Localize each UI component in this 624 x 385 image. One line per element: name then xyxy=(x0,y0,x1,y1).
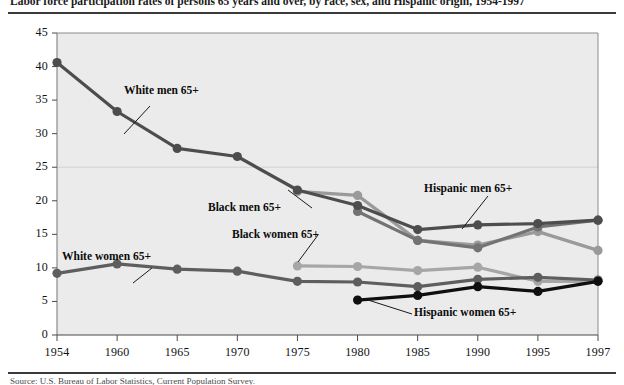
data-point xyxy=(473,220,482,229)
annotation-black-men: Black men 65+ xyxy=(208,201,281,213)
data-point xyxy=(593,216,602,225)
x-tick-label-1975: 1975 xyxy=(274,345,320,360)
x-tick-label-1990: 1990 xyxy=(455,345,501,360)
data-point xyxy=(353,277,362,286)
figure-panel: Labor force participation rates of perso… xyxy=(0,0,624,385)
data-point xyxy=(113,107,122,116)
data-point xyxy=(233,152,242,161)
data-point xyxy=(413,282,422,291)
data-point xyxy=(52,269,61,278)
data-point xyxy=(173,144,182,153)
data-point xyxy=(413,236,422,245)
data-point xyxy=(593,277,602,286)
x-tick-label-1965: 1965 xyxy=(154,345,200,360)
data-point xyxy=(533,219,542,228)
data-point xyxy=(52,58,61,67)
data-point xyxy=(413,291,422,300)
annotation-white-women: White women 65+ xyxy=(62,250,151,262)
y-tick-label-45: 45 xyxy=(22,25,48,40)
data-point xyxy=(293,261,302,270)
data-point xyxy=(473,243,482,252)
data-point xyxy=(353,201,362,210)
x-tick-label-1980: 1980 xyxy=(335,345,381,360)
annotation-hispanic-men: Hispanic men 65+ xyxy=(424,182,512,194)
y-tick-label-10: 10 xyxy=(22,260,48,275)
chart-canvas xyxy=(0,0,624,385)
x-tick-label-1995: 1995 xyxy=(515,345,561,360)
x-tick-label-1997: 1997 xyxy=(575,345,621,360)
data-point xyxy=(413,266,422,275)
annotation-white-men: White men 65+ xyxy=(124,84,199,96)
data-point xyxy=(353,262,362,271)
y-tick-label-40: 40 xyxy=(22,59,48,74)
data-point xyxy=(533,273,542,282)
data-point xyxy=(533,287,542,296)
data-point xyxy=(473,282,482,291)
x-tick-label-1985: 1985 xyxy=(395,345,441,360)
bottom-rule xyxy=(8,372,616,374)
data-point xyxy=(593,246,602,255)
y-tick-label-0: 0 xyxy=(22,327,48,342)
y-tick-label-25: 25 xyxy=(22,159,48,174)
x-tick-label-1954: 1954 xyxy=(34,345,80,360)
data-point xyxy=(293,277,302,286)
annotation-black-women: Black women 65+ xyxy=(232,228,319,240)
data-point xyxy=(293,185,302,194)
x-tick-label-1960: 1960 xyxy=(94,345,140,360)
y-tick-label-20: 20 xyxy=(22,193,48,208)
data-point xyxy=(473,263,482,272)
data-point xyxy=(353,191,362,200)
y-tick-label-30: 30 xyxy=(22,126,48,141)
figure-source: Source: U.S. Bureau of Labor Statistics,… xyxy=(10,376,616,385)
y-tick-label-5: 5 xyxy=(22,293,48,308)
data-point xyxy=(353,296,362,305)
data-point xyxy=(413,225,422,234)
y-tick-label-15: 15 xyxy=(22,226,48,241)
x-tick-label-1970: 1970 xyxy=(214,345,260,360)
data-point xyxy=(173,265,182,274)
annotation-hispanic-women: Hispanic women 65+ xyxy=(414,306,516,318)
y-tick-label-35: 35 xyxy=(22,92,48,107)
data-point xyxy=(233,267,242,276)
